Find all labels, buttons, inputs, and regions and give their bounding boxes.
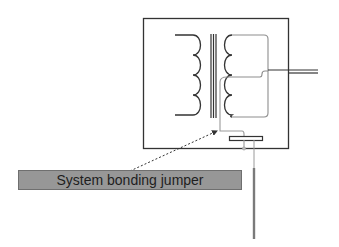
bond-point	[242, 147, 245, 150]
center-tap	[227, 71, 268, 77]
neutral-wire	[220, 77, 244, 136]
callout-label: System bonding jumper	[18, 170, 242, 190]
secondary-winding	[225, 35, 233, 117]
transformer-core	[211, 34, 216, 118]
transformer-diagram	[0, 0, 339, 247]
output-conductors	[268, 70, 318, 73]
secondary-outer-loop	[232, 35, 268, 117]
bonding-bar	[230, 137, 263, 141]
primary-winding	[175, 35, 201, 115]
